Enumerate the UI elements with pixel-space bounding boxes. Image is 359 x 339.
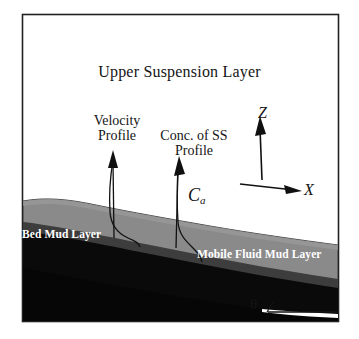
z-axis-label: Z: [258, 105, 267, 122]
bed-mud-layer-label: Bed Mud Layer: [22, 228, 101, 240]
x-axis-label: X: [304, 182, 314, 199]
mobile-fluid-mud-layer-label: Mobile Fluid Mud Layer: [197, 248, 322, 260]
page-title: Upper Suspension Layer: [0, 64, 359, 81]
schematic-canvas: [0, 0, 359, 339]
conc-of-ss-profile-label: Conc. of SS Profile: [154, 129, 234, 158]
mud-layer-schematic-figure: Upper Suspension Layer Velocity Profile …: [0, 0, 359, 339]
velocity-profile-label: Velocity Profile: [84, 114, 150, 143]
ca-subscript: a: [200, 194, 206, 206]
theta-angle-label: θ: [250, 297, 257, 313]
near-bed-concentration-label: Ca: [188, 186, 206, 207]
ca-symbol: C: [188, 185, 200, 205]
